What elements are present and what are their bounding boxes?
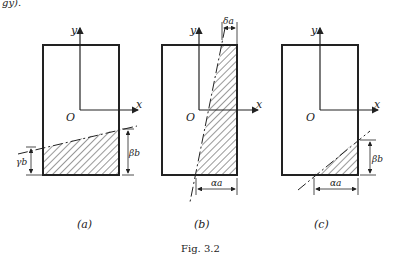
y-label-b: y xyxy=(189,24,197,37)
x-label-b: x xyxy=(256,98,263,111)
y-label-a: y xyxy=(70,24,78,37)
beta-b-label-a: βb xyxy=(128,148,140,158)
panel-b: y x O δa αa (b) xyxy=(162,16,263,231)
origin-label-c: O xyxy=(306,111,315,124)
hatched-region-c xyxy=(314,140,358,175)
figure-3-2: gy). y x O γb βb (a) y x O δa xyxy=(0,0,394,262)
caption-b: (b) xyxy=(194,218,210,231)
beta-b-label-c: βb xyxy=(371,154,383,164)
panel-c: y x O βb αa (c) xyxy=(282,24,383,231)
x-label-a: x xyxy=(136,98,143,111)
caption-a: (a) xyxy=(77,218,92,231)
x-label-c: x xyxy=(374,98,381,111)
gamma-b-label: γb xyxy=(16,157,27,167)
y-label-c: y xyxy=(310,24,318,37)
text-fragment: gy). xyxy=(2,0,21,8)
origin-label-b: O xyxy=(186,111,195,124)
figure-caption: Fig. 3.2 xyxy=(181,243,220,254)
alpha-a-label-b: αa xyxy=(211,178,222,188)
delta-a-label: δa xyxy=(223,16,234,26)
alpha-a-label-c: αa xyxy=(330,178,341,188)
caption-c: (c) xyxy=(314,218,329,231)
hatched-region-a xyxy=(43,129,119,175)
panel-a: y x O γb βb (a) xyxy=(16,24,143,231)
origin-label-a: O xyxy=(66,111,75,124)
